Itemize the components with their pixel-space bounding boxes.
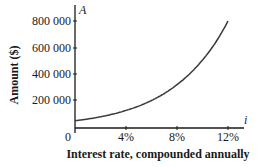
x-tick-label-8: 8% <box>169 130 185 144</box>
y-tick-label-200000: 200 000 <box>32 93 71 107</box>
x-axis-variable: i <box>244 113 247 127</box>
y-tick-label-400000: 400 000 <box>32 67 71 81</box>
x-axis-title: Interest rate, compounded annually <box>66 147 249 161</box>
amount-curve <box>75 21 228 121</box>
y-axis-variable: A <box>78 3 87 17</box>
x-tick-label-12: 12% <box>217 130 239 144</box>
y-axis-title: Amount ($) <box>7 45 21 104</box>
x-tick-label-0: 0 <box>65 130 71 144</box>
y-tick-label-800000: 800 000 <box>32 14 71 28</box>
chart-canvas: 800 000 600 000 400 000 200 000 0 4% 8% … <box>0 0 262 167</box>
x-tick-label-4: 4% <box>118 130 134 144</box>
y-tick-label-600000: 600 000 <box>32 41 71 55</box>
